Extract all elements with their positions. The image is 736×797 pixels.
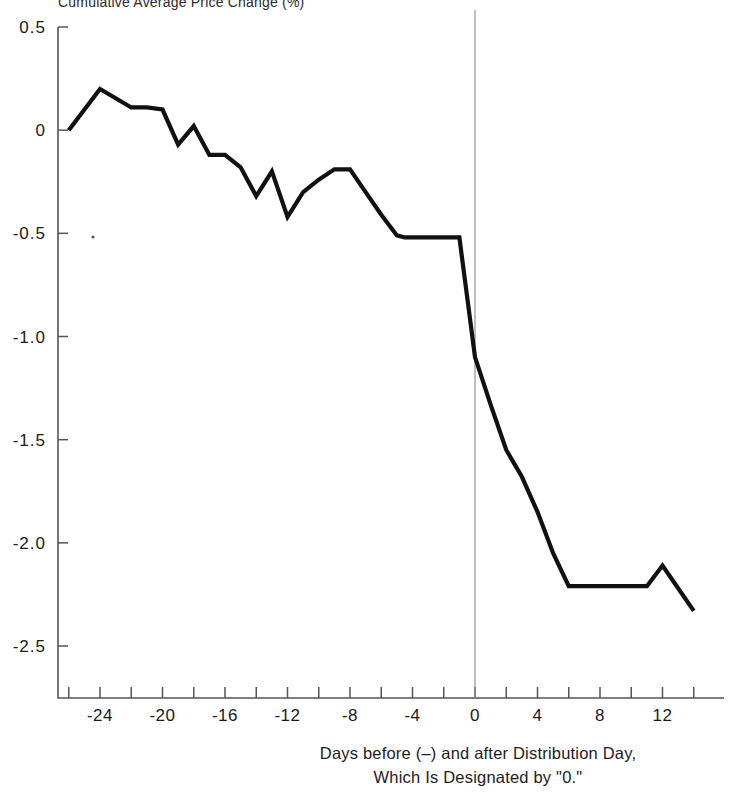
x-tick-label: 4 [533,706,543,725]
y-tick-label: -2.0 [13,534,46,553]
x-tick-labels: -24-20-16-12-8-404812 [87,706,673,725]
y-tick-labels: 0.50-0.5-1.0-1.5-2.0-2.5 [13,18,46,656]
x-tick-label: -4 [404,706,420,725]
chart-caption: Days before (–) and after Distribution D… [228,742,728,790]
y-tick-marks [58,27,68,646]
chart-figure: Cumulative Average Price Change (%) 0.50… [0,0,736,797]
plot-axes: 0.50-0.5-1.0-1.5-2.0-2.5 -24-20-16-12-8-… [13,18,724,725]
data-series-line [69,89,694,611]
x-tick-label: -24 [87,706,113,725]
caption-line-2: Which Is Designated by "0." [228,766,728,790]
x-tick-label: -8 [342,706,358,725]
x-tick-label: 0 [470,706,480,725]
x-tick-marks [69,687,694,698]
y-tick-label: -1.5 [13,431,46,450]
line-chart-plot: 0.50-0.5-1.0-1.5-2.0-2.5 -24-20-16-12-8-… [0,0,736,797]
x-tick-label: -12 [274,706,300,725]
caption-line-1: Days before (–) and after Distribution D… [228,742,728,766]
y-tick-label: -1.0 [13,328,46,347]
x-tick-label: -16 [212,706,238,725]
x-tick-label: 8 [595,706,605,725]
stray-ink-dot [91,235,94,238]
y-tick-label: 0.5 [19,18,46,37]
x-tick-label: 12 [653,706,673,725]
y-tick-label: -0.5 [13,224,46,243]
y-tick-label: -2.5 [13,637,46,656]
axis-frame [58,27,724,698]
x-tick-label: -20 [149,706,175,725]
y-tick-label: 0 [36,121,46,140]
